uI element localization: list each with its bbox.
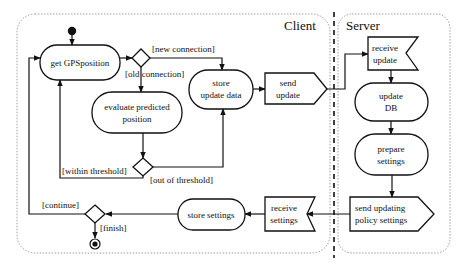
action-get-gps-position: get GPSposition — [40, 45, 120, 80]
signal-receive-update: receive update — [368, 37, 418, 70]
client-partition-title: Client — [284, 18, 316, 33]
svg-text:update data: update data — [200, 90, 241, 100]
action-update-db: update DB — [355, 83, 428, 121]
activity-diagram: Client Server get GPSposition [new conne… — [0, 0, 461, 267]
guard-finish: [finish] — [100, 223, 127, 233]
action-evaluate-predicted-position: evaluate predicted position — [92, 92, 182, 133]
svg-text:get GPSposition: get GPSposition — [51, 58, 110, 68]
svg-text:position: position — [122, 114, 152, 124]
svg-text:send: send — [280, 78, 297, 88]
guard-out-of-threshold: [out of threshold] — [150, 175, 213, 185]
svg-text:update: update — [373, 55, 397, 65]
decision-continue-finish — [85, 205, 105, 223]
svg-text:receive: receive — [372, 43, 398, 53]
svg-text:settings: settings — [270, 215, 298, 225]
svg-text:send updating: send updating — [355, 203, 406, 213]
svg-text:settings: settings — [377, 156, 405, 166]
svg-text:evaluate predicted: evaluate predicted — [104, 102, 170, 112]
guard-within-threshold: [within threshold] — [62, 166, 127, 176]
svg-text:policy settings: policy settings — [355, 215, 408, 225]
action-store-settings: store settings — [178, 199, 245, 230]
final-node — [90, 239, 100, 249]
guard-old-connection: [old connection] — [125, 69, 184, 79]
server-partition-title: Server — [346, 18, 381, 33]
edge-continue — [29, 58, 85, 214]
guard-new-connection: [new connection] — [152, 44, 215, 54]
svg-text:prepare: prepare — [378, 144, 405, 154]
svg-text:store: store — [212, 78, 230, 88]
action-prepare-settings: prepare settings — [355, 134, 428, 175]
signal-send-updating-policy-settings: send updating policy settings — [350, 197, 434, 231]
guard-continue: [continue] — [42, 200, 79, 210]
decision-connection-type — [132, 49, 150, 67]
edge-send-to-receive-update — [327, 54, 368, 89]
svg-text:update: update — [276, 90, 300, 100]
svg-text:store settings: store settings — [187, 210, 235, 220]
initial-node — [68, 27, 76, 35]
svg-text:update: update — [379, 91, 403, 101]
signal-receive-settings: receive settings — [265, 197, 315, 231]
signal-send-update: send update — [265, 73, 327, 104]
svg-text:receive: receive — [271, 203, 297, 213]
svg-text:DB: DB — [385, 103, 398, 113]
decision-threshold — [133, 158, 153, 176]
action-store-update-data: store update data — [189, 70, 253, 109]
